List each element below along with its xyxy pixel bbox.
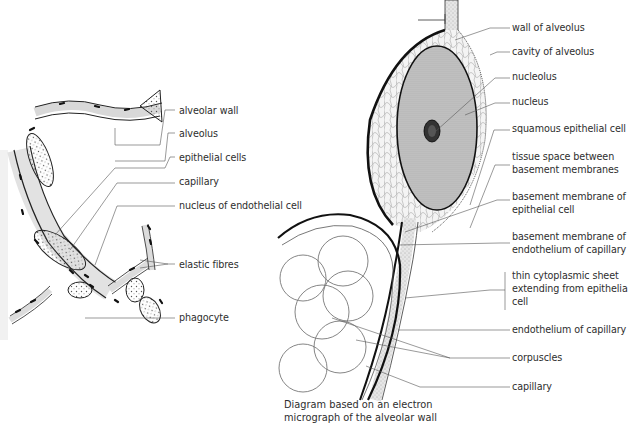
label-squamous-epithelial-cell: squamous epithelial cell xyxy=(512,122,626,135)
label-nucleus-endothelial-cell: nucleus of endothelial cell xyxy=(179,199,302,212)
left-tissue-drawing xyxy=(10,90,165,327)
label-basement-membrane-epithelial: basement membrane of epithelial cell xyxy=(512,190,626,216)
label-cavity-of-alveolus: cavity of alveolus xyxy=(512,45,594,58)
figure-caption: Diagram based on an electron micrograph … xyxy=(284,398,437,424)
corpuscles-drawing xyxy=(279,236,373,392)
label-epithelial-cells: epithelial cells xyxy=(179,151,246,164)
label-wall-of-alveolus: wall of alveolus xyxy=(512,21,585,34)
label-corpuscles: corpuscles xyxy=(512,351,562,364)
label-nucleus: nucleus xyxy=(512,95,548,108)
label-alveolus: alveolus xyxy=(179,127,218,140)
label-elastic-fibres: elastic fibres xyxy=(179,258,239,271)
label-thin-cytoplasmic-sheet: thin cytoplasmic sheet extending from ep… xyxy=(512,269,628,308)
label-nucleolus: nucleolus xyxy=(512,70,557,83)
label-endothelium-of-capillary: endothelium of capillary xyxy=(512,323,626,336)
label-phagocyte: phagocyte xyxy=(179,311,229,324)
label-basement-membrane-endothelium: basement membrane of endothelium of capi… xyxy=(512,230,626,256)
label-capillary-right: capillary xyxy=(512,380,552,393)
label-capillary-left: capillary xyxy=(179,175,219,188)
label-alveolar-wall: alveolar wall xyxy=(179,104,238,117)
right-alveolus-drawing xyxy=(278,0,486,400)
label-tissue-space: tissue space between basement membranes xyxy=(512,150,619,176)
